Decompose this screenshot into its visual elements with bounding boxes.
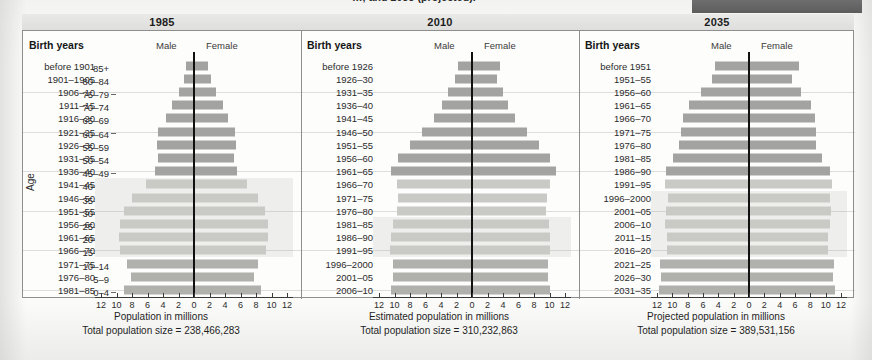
x-axis-tick-label: 10 (544, 300, 554, 310)
pyramid-row: 2001–05 (579, 204, 855, 217)
x-axis-tick (672, 293, 673, 297)
x-axis-tick-label: 8 (531, 300, 536, 310)
x-axis-tick-label: 8 (407, 300, 412, 310)
male-bar (158, 153, 194, 162)
x-axis-tick-label: 2 (176, 300, 181, 310)
birth-years-header: Birth years (307, 39, 362, 51)
female-bar (194, 246, 266, 255)
x-axis-tick (410, 293, 411, 297)
male-legend-label: Male (156, 40, 177, 51)
male-bar (172, 101, 194, 110)
male-bar (127, 259, 194, 268)
x-axis-tick-label: 12 (652, 300, 662, 310)
pyramid-row: 1981–85 (23, 283, 301, 296)
x-axis-tick (488, 293, 489, 297)
x-axis-tick-label: 0 (746, 300, 751, 310)
pyramid-row: 1976–80 (23, 270, 301, 283)
female-bar (749, 206, 831, 215)
female-bar (472, 285, 550, 294)
male-bar (448, 87, 472, 96)
x-axis-tick (426, 293, 427, 297)
female-bar (749, 114, 815, 123)
male-bar (397, 206, 472, 215)
female-bar (472, 114, 515, 123)
male-bar (715, 61, 749, 70)
x-axis-title: Projected population in millions (578, 311, 854, 322)
x-axis-tick (810, 293, 811, 297)
x-axis-tick (749, 293, 750, 297)
pyramid-row: 1986–90 (301, 231, 579, 244)
x-axis-tick-label: 6 (423, 300, 428, 310)
male-bar (391, 233, 472, 242)
birth-years-label: 1966–70 (301, 179, 373, 190)
x-axis-tick (826, 293, 827, 297)
female-bar (472, 167, 556, 176)
x-axis-tick (132, 293, 133, 297)
female-bar (749, 87, 801, 96)
birth-years-label: 1961–65 (579, 100, 651, 111)
male-bar (665, 180, 749, 189)
x-axis-tick (780, 293, 781, 297)
pyramid-panel-2010: 2010Birth yearsMaleFemalebefore 19261926… (301, 31, 579, 299)
birth-years-label: 1926–30 (23, 139, 95, 150)
x-axis-tick-label: 10 (266, 300, 276, 310)
pyramid-row: 1996–2000 (579, 191, 855, 204)
male-bar (410, 140, 472, 149)
pyramid-row: 2026–30 (579, 270, 855, 283)
male-bar (455, 74, 472, 83)
x-axis-tick-label: 6 (238, 300, 243, 310)
x-axis-tick-label: 2 (454, 300, 459, 310)
birth-years-label: 1966–70 (23, 245, 95, 256)
birth-years-label: 1906–10 (23, 86, 95, 97)
x-axis-tick-label: 8 (129, 300, 134, 310)
x-axis-tick (148, 293, 149, 297)
x-axis-tick-label: 4 (438, 300, 443, 310)
birth-years-label: 1971–75 (301, 192, 373, 203)
pyramid-row: 1911–15 (23, 99, 301, 112)
female-bar (194, 206, 265, 215)
x-axis-tick (194, 293, 195, 297)
pyramid-row: 1946–50 (301, 125, 579, 138)
birth-years-label: 1971–75 (23, 258, 95, 269)
pyramid-row: 1926–30 (23, 138, 301, 151)
pyramid-row: 1941–45 (23, 178, 301, 191)
birth-years-label: 2001–05 (579, 205, 651, 216)
pyramid-row: 1966–70 (23, 244, 301, 257)
birth-years-label: 1936–40 (301, 100, 373, 111)
male-bar (120, 246, 194, 255)
female-bar (749, 272, 833, 281)
birth-years-header: Birth years (29, 39, 84, 51)
x-axis-title: Population in millions (22, 311, 300, 322)
x-axis-tick-label: 4 (716, 300, 721, 310)
pyramid-row: 1956–60 (301, 151, 579, 164)
total-population-label: Total population size = 238,466,283 (22, 325, 300, 336)
x-axis-tick-label: 6 (516, 300, 521, 310)
male-bar (442, 101, 472, 110)
male-bar (661, 272, 749, 281)
female-bar (472, 153, 550, 162)
pyramid-row: 2016–20 (579, 244, 855, 257)
male-bar (166, 114, 194, 123)
male-bar (422, 127, 472, 136)
female-bar (472, 87, 503, 96)
birth-years-label: 2006–10 (301, 284, 373, 295)
pyramid-row: 1951–55 (579, 72, 855, 85)
x-axis-tick (657, 293, 658, 297)
x-axis-tick-label: 8 (808, 300, 813, 310)
female-legend-label: Female (206, 40, 238, 51)
birth-years-label: 1976–80 (301, 205, 373, 216)
x-axis-tick-label: 4 (777, 300, 782, 310)
x-axis-tick (179, 293, 180, 297)
male-bar (393, 219, 472, 228)
female-bar (749, 233, 828, 242)
x-axis-tick (241, 293, 242, 297)
birth-years-label: 1961–65 (301, 166, 373, 177)
x-axis-tick-label: 4 (500, 300, 505, 310)
birth-years-label: 1981–85 (23, 284, 95, 295)
birth-years-label: 1946–50 (301, 126, 373, 137)
pyramid-row: 1961–65 (23, 231, 301, 244)
x-axis-tick (163, 293, 164, 297)
birth-years-label: 2031–35 (579, 284, 651, 295)
population-pyramid-figure: …, and 2035 (projected). Age 85+80–8475–… (0, 0, 872, 360)
female-bar (472, 101, 508, 110)
